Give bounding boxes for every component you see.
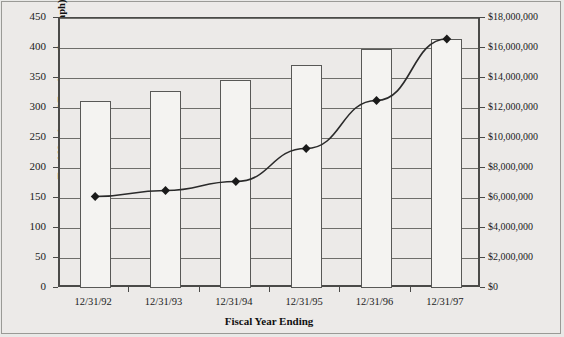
right-axis-tick-label: $4,000,000: [488, 222, 533, 232]
left-axis-tick-label: 100: [6, 221, 46, 232]
right-axis-tick-label: $0: [488, 282, 498, 292]
left-axis-tick: [53, 287, 58, 288]
revenue-marker-12-31-92: [91, 192, 100, 201]
plot-area: [58, 17, 480, 287]
x-axis-label-12-31-93: 12/31/93: [129, 296, 199, 307]
revenue-marker-12-31-93: [161, 186, 170, 195]
left-axis-tick-label: 50: [6, 251, 46, 262]
left-axis-tick-label: 350: [6, 71, 46, 82]
revenue-marker-12-31-97: [442, 35, 451, 44]
revenue-line: [95, 39, 447, 197]
left-axis-tick-label: 150: [6, 191, 46, 202]
left-axis-tick-label: 0: [6, 281, 46, 292]
right-axis-tick-label: $12,000,000: [488, 102, 538, 112]
right-axis-tick-label: $8,000,000: [488, 162, 533, 172]
left-axis-tick-label: 450: [6, 11, 46, 22]
right-axis-tick-label: $18,000,000: [488, 12, 538, 22]
right-axis-tick-label: $10,000,000: [488, 132, 538, 142]
left-axis-tick-label: 300: [6, 101, 46, 112]
revenue-marker-12-31-96: [372, 96, 381, 105]
x-axis-label-12-31-96: 12/31/96: [340, 296, 410, 307]
revenue-marker-12-31-95: [302, 144, 311, 153]
right-axis-tick-label: $14,000,000: [488, 72, 538, 82]
x-axis-label-12-31-95: 12/31/95: [269, 296, 339, 307]
line-series-overlay: [60, 18, 482, 288]
right-axis-tick-label: $2,000,000: [488, 252, 533, 262]
left-axis-tick-label: 200: [6, 161, 46, 172]
x-axis-title: Fiscal Year Ending: [58, 315, 480, 327]
left-axis-tick-label: 400: [6, 41, 46, 52]
left-axis-tick-label: 250: [6, 131, 46, 142]
right-axis-tick-label: $16,000,000: [488, 42, 538, 52]
revenue-marker-12-31-94: [231, 177, 240, 186]
chart-screenshot: Total Number of Employees (bar graph) To…: [0, 0, 564, 337]
x-axis-label-12-31-97: 12/31/97: [410, 296, 480, 307]
x-axis-label-12-31-92: 12/31/92: [58, 296, 128, 307]
right-axis-tick-label: $6,000,000: [488, 192, 533, 202]
x-axis-label-12-31-94: 12/31/94: [199, 296, 269, 307]
